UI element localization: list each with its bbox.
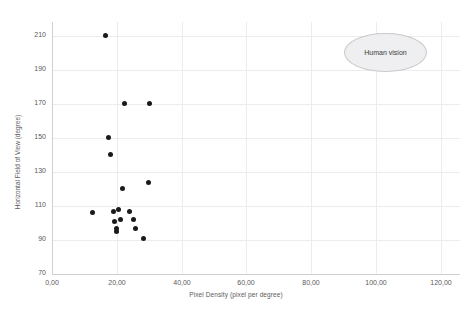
x-tick-label: 0,00: [22, 279, 82, 286]
x-axis-title: Pixel Density (pixel per degree): [0, 291, 472, 298]
data-point: [106, 135, 111, 140]
gridline-vertical: [182, 22, 183, 274]
gridline-vertical: [441, 22, 442, 274]
x-tick-label: 80,00: [281, 279, 341, 286]
scatter-chart: 70901101301501701902100,0020,0040,0060,0…: [0, 0, 472, 324]
x-tick-label: 120,00: [411, 279, 471, 286]
gridline-horizontal: [52, 138, 460, 139]
gridline-vertical: [117, 22, 118, 274]
gridline-horizontal: [52, 206, 460, 207]
x-tick-label: 40,00: [152, 279, 212, 286]
y-tick-label: 210: [6, 31, 46, 38]
data-point: [122, 101, 127, 106]
y-tick-label: 70: [6, 269, 46, 276]
gridline-horizontal: [52, 240, 460, 241]
data-point: [133, 226, 138, 231]
gridline-vertical: [246, 22, 247, 274]
data-point: [108, 152, 113, 157]
data-point: [116, 207, 121, 212]
x-axis-line: [52, 274, 460, 275]
data-point: [118, 217, 123, 222]
y-tick-label: 90: [6, 235, 46, 242]
y-tick-label: 170: [6, 99, 46, 106]
gridline-horizontal: [52, 172, 460, 173]
data-point: [147, 101, 152, 106]
data-point: [146, 180, 151, 185]
y-axis-line: [52, 22, 53, 274]
y-tick-label: 110: [6, 201, 46, 208]
human-vision-annotation: Human vision: [344, 33, 426, 72]
data-point: [141, 236, 146, 241]
data-point: [131, 217, 136, 222]
data-point: [127, 209, 132, 214]
data-point: [103, 33, 108, 38]
x-tick-label: 20,00: [87, 279, 147, 286]
data-point: [90, 210, 95, 215]
data-point: [114, 229, 119, 234]
y-tick-label: 150: [6, 133, 46, 140]
gridline-vertical: [311, 22, 312, 274]
x-tick-label: 100,00: [346, 279, 406, 286]
y-tick-label: 190: [6, 65, 46, 72]
gridline-horizontal: [52, 104, 460, 105]
x-tick-label: 60,00: [216, 279, 276, 286]
human-vision-label: Human vision: [364, 49, 406, 56]
y-tick-label: 130: [6, 167, 46, 174]
data-point: [120, 186, 125, 191]
